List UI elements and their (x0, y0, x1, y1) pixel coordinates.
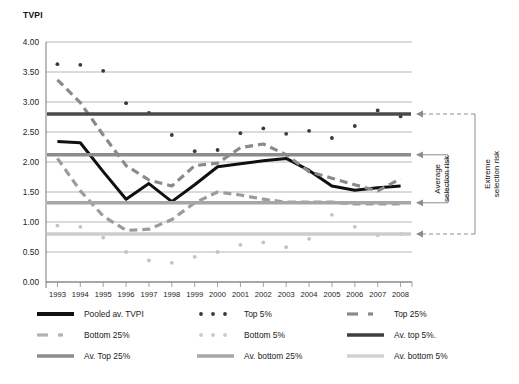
y-tick-label: 3.00 (23, 97, 40, 107)
series-point (284, 132, 288, 136)
series-point (261, 126, 265, 130)
series-point (56, 224, 60, 228)
series-point (101, 236, 105, 240)
series-point (307, 237, 311, 241)
series-line (57, 158, 400, 230)
legend-label: Av. top 5%. (394, 330, 436, 340)
x-tick-label: 2004 (301, 290, 318, 299)
legend-item: Av. Top 25% (36, 351, 196, 361)
series-point (124, 101, 128, 105)
legend-dot (199, 333, 203, 337)
y-tick-label: 2.50 (23, 127, 40, 137)
callout-arrowhead (416, 231, 423, 238)
series-point (307, 129, 311, 133)
x-tick-label: 1999 (186, 290, 203, 299)
legend-label: Bottom 25% (84, 330, 130, 340)
legend-label: Pooled av. TVPI (84, 309, 144, 319)
x-tick-label: 1994 (72, 290, 89, 299)
series-point (239, 131, 243, 135)
legend-swatch (346, 351, 388, 361)
series-point (193, 149, 197, 153)
y-tick-label: 0.00 (23, 277, 40, 287)
legend-dot (223, 333, 227, 337)
legend-swatch (36, 351, 78, 361)
y-tick-label: 0.50 (23, 247, 40, 257)
series-point (330, 213, 334, 217)
series-point (216, 250, 220, 254)
x-tick-label: 2006 (346, 290, 363, 299)
legend-dot (223, 312, 227, 316)
legend-swatch (196, 351, 238, 361)
legend-dot (211, 312, 215, 316)
legend-swatch (196, 309, 238, 319)
series-point (261, 241, 265, 245)
legend-label: Top 25% (394, 309, 427, 319)
chart-canvas: 0.000.501.001.502.002.503.003.504.001993… (0, 0, 519, 305)
series-point (193, 255, 197, 259)
legend-item: Bottom 5% (196, 330, 346, 340)
x-tick-label: 1998 (163, 290, 180, 299)
y-tick-label: 1.50 (23, 187, 40, 197)
y-tick-label: 1.00 (23, 217, 40, 227)
x-tick-label: 2000 (209, 290, 226, 299)
legend-label: Av. bottom 5% (394, 351, 448, 361)
legend-label: Av. Top 25% (84, 351, 130, 361)
series-point (353, 124, 357, 128)
series-point (101, 69, 105, 73)
callout-arrowhead (416, 111, 423, 118)
legend-item: Top 25% (346, 309, 516, 319)
legend-label: Top 5% (244, 309, 272, 319)
x-tick-label: 1997 (140, 290, 157, 299)
annotation-extreme-selection-risk-text: Extremeselection risk (483, 150, 501, 197)
series-point (284, 245, 288, 249)
y-tick-label: 2.00 (23, 157, 40, 167)
legend-swatch (36, 330, 78, 340)
chart-figure: TVPI 0.000.501.001.502.002.503.003.504.0… (0, 0, 519, 384)
legend-swatch (36, 309, 78, 319)
series-point (124, 250, 128, 254)
x-tick-label: 2007 (369, 290, 386, 299)
legend-item: Av. top 5%. (346, 330, 516, 340)
series-line (57, 80, 400, 191)
series-point (78, 225, 82, 229)
x-tick-label: 1993 (49, 290, 66, 299)
callout-arrowhead (416, 151, 423, 158)
series-point (56, 62, 60, 66)
legend-swatch (346, 330, 388, 340)
series-point (170, 261, 174, 265)
series-point (147, 259, 151, 263)
x-tick-label: 1996 (118, 290, 135, 299)
legend-swatch (346, 309, 388, 319)
legend-item: Top 5% (196, 309, 346, 319)
legend-label: Bottom 5% (244, 330, 285, 340)
series-point (216, 148, 220, 152)
annotation-average-selection-risk: Averageselection risk (433, 155, 451, 202)
legend-dot (211, 333, 215, 337)
x-tick-label: 1995 (95, 290, 112, 299)
series-point (376, 109, 380, 113)
series-point (330, 136, 334, 140)
x-tick-label: 2003 (278, 290, 295, 299)
series-point (78, 63, 82, 67)
legend-item: Bottom 25% (36, 330, 196, 340)
legend-item: Av. bottom 5% (346, 351, 516, 361)
callout-arrowhead (416, 199, 423, 206)
series-point (239, 243, 243, 247)
y-tick-label: 3.50 (23, 67, 40, 77)
chart-legend: Pooled av. TVPITop 5%Top 25%Bottom 25%Bo… (0, 303, 519, 383)
x-tick-label: 2008 (392, 290, 409, 299)
legend-label: Av. bottom 25% (244, 351, 302, 361)
x-tick-label: 2005 (323, 290, 340, 299)
x-tick-label: 2002 (255, 290, 272, 299)
legend-item: Av. bottom 25% (196, 351, 346, 361)
legend-dot (199, 312, 203, 316)
series-point (353, 225, 357, 229)
x-tick-label: 2001 (232, 290, 249, 299)
y-tick-label: 4.00 (23, 37, 40, 47)
annotation-extreme-selection-risk: Extremeselection risk (483, 150, 501, 197)
series-point (170, 133, 174, 137)
legend-item: Pooled av. TVPI (36, 309, 196, 319)
y-axis-title: TVPI (23, 10, 43, 20)
legend-swatch (196, 330, 238, 340)
annotation-average-selection-risk-text: Averageselection risk (433, 155, 451, 202)
